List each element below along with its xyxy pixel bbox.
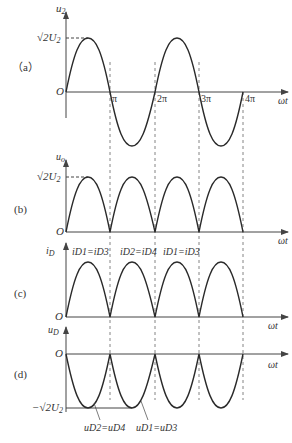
panel-c-annotation-2: iD2=iD4 [120, 247, 157, 257]
panel-b-ylabel: uo [56, 152, 65, 164]
panel-d-label: (d) [14, 369, 27, 380]
panel-b-rectified-curve [66, 177, 243, 232]
panel-d-axes [66, 327, 288, 412]
panel-a-origin: O [56, 86, 64, 97]
panel-c-xlabel: ωt [268, 321, 278, 331]
panel-c-current-curve [66, 262, 243, 317]
panel-c-annotation-1: iD1=iD3 [72, 247, 109, 257]
panel-d-xlabel: ωt [268, 360, 278, 370]
panel-a-peak-label: √2U2 [37, 32, 60, 45]
panel-d-annotation-2: uD1=uD3 [136, 423, 177, 433]
panel-b-axes [66, 160, 288, 232]
rectifier-waveforms [0, 0, 292, 443]
panel-d-ylabel: uD [48, 325, 59, 337]
panel-a-xlabel: ωt [278, 96, 288, 106]
panel-b-origin: O [56, 226, 64, 237]
panel-c-origin: O [55, 311, 63, 322]
panel-a-ylabel: u2 [56, 3, 66, 16]
panel-d-annotation-1: uD2=uD4 [84, 423, 125, 433]
panel-d-origin: O [55, 348, 63, 359]
panel-a-label: （a） [12, 62, 39, 73]
panel-d-diode-voltage-curve [66, 354, 243, 408]
dashed-guides [110, 62, 243, 400]
panel-c-annotation-3: iD1=iD3 [163, 247, 200, 257]
tick-3pi: 3π [201, 94, 211, 104]
panel-d-trough-label: −√2U2 [32, 402, 63, 415]
panel-b-label: (b) [14, 204, 27, 215]
tick-2pi: 2π [157, 94, 167, 104]
panel-c-label: (c) [14, 288, 26, 299]
panel-d-leader-lines [94, 401, 148, 420]
panel-b-xlabel: ωt [278, 236, 288, 246]
panel-c-ylabel: iD [46, 246, 55, 258]
tick-pi: π [112, 94, 117, 104]
panel-b-peak-label: √2U2 [37, 171, 60, 184]
tick-4pi: 4π [245, 94, 255, 104]
